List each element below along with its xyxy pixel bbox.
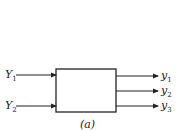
output-label-3: y3 <box>161 100 172 114</box>
block-diagram <box>0 0 183 131</box>
caption: (a) <box>80 119 95 130</box>
system-block <box>56 69 116 112</box>
input-label-1: Y1 <box>5 69 17 83</box>
output-label-1: y1 <box>161 70 172 84</box>
output-label-2: y2 <box>161 85 172 99</box>
input-label-2: Y2 <box>5 100 17 114</box>
